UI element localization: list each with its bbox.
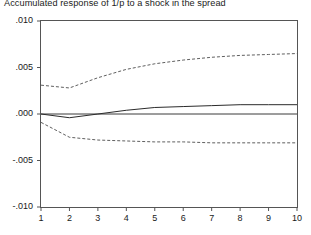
y-tick-label: -.005 <box>0 155 33 165</box>
data-series-group <box>41 54 297 143</box>
x-tick-label: 3 <box>88 213 108 223</box>
x-tick-label: 9 <box>259 213 279 223</box>
plot-area <box>0 0 311 235</box>
series-line <box>41 122 297 142</box>
x-tick-label: 7 <box>202 213 222 223</box>
chart-figure: Accumulated response of 1/p to a shock i… <box>0 0 311 235</box>
series-line <box>41 105 297 118</box>
y-tick-label: .000 <box>0 108 33 118</box>
x-tick-label: 1 <box>31 213 51 223</box>
x-tick-label: 4 <box>116 213 136 223</box>
x-tick-label: 8 <box>230 213 250 223</box>
y-tick-label: .010 <box>0 15 33 25</box>
y-tick-label: .005 <box>0 62 33 72</box>
x-tick-label: 10 <box>287 213 307 223</box>
y-tick-label: -.010 <box>0 201 33 211</box>
series-line <box>41 54 297 88</box>
x-tick-label: 2 <box>59 213 79 223</box>
x-tick-label: 6 <box>173 213 193 223</box>
x-tick-label: 5 <box>145 213 165 223</box>
